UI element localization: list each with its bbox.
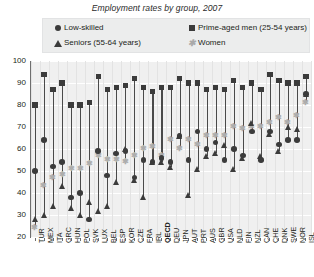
circle-marker-icon [204, 146, 210, 152]
circle-marker-icon [276, 142, 282, 148]
y-axis-tick-label: 80 [2, 101, 26, 109]
data-column: ✱ [239, 61, 248, 237]
data-column: ✱ [266, 61, 275, 237]
triangle-marker-icon [285, 124, 291, 130]
star-marker-icon: ✱ [131, 152, 138, 160]
circle-marker-icon [240, 153, 246, 159]
range-connector-line [143, 87, 144, 197]
square-marker-icon [32, 102, 37, 107]
range-connector-line [44, 74, 45, 215]
star-marker-icon: ✱ [122, 158, 129, 166]
vertical-gridline [311, 61, 312, 237]
star-marker-icon: ✱ [185, 136, 192, 144]
circle-marker-icon [68, 195, 74, 201]
data-column: ✱ [76, 61, 85, 237]
star-marker-icon: ✱ [185, 37, 198, 50]
star-marker-icon: ✱ [140, 145, 147, 153]
y-axis-tick-label: 60 [2, 145, 26, 153]
star-marker-icon: ✱ [230, 123, 237, 131]
x-axis-label-oecd: OECD [164, 222, 171, 243]
circle-marker-icon [150, 159, 156, 165]
triangle-marker-icon [59, 183, 65, 189]
circle-marker-icon [222, 157, 228, 163]
star-marker-icon: ✱ [68, 165, 75, 173]
circle-marker-icon [186, 157, 192, 163]
legend-item-women: ✱ Women [185, 36, 309, 50]
circle-marker-icon [95, 148, 101, 154]
y-axis-tick-label: 20 [2, 233, 26, 241]
data-column: ✱ [139, 61, 148, 237]
range-connector-line [116, 87, 117, 182]
triangle-marker-icon [248, 120, 254, 126]
square-marker-icon [59, 80, 64, 85]
data-column: ✱ [284, 61, 293, 237]
circle-marker-icon [159, 155, 165, 161]
legend-item-prime-aged-men: Prime-aged men (25-54 years) [185, 21, 309, 35]
data-column: ✱ [302, 61, 311, 237]
triangle-marker-icon [86, 199, 92, 205]
square-marker-icon [285, 80, 290, 85]
x-axis-label-che: CHE [272, 228, 279, 243]
circle-marker-icon [123, 148, 129, 154]
square-marker-icon [240, 85, 245, 90]
range-connector-line [107, 90, 108, 207]
data-column: ✱ [167, 61, 176, 237]
star-marker-icon: ✱ [113, 156, 120, 164]
square-marker-icon [195, 80, 200, 85]
x-axis-label-gbr: GBR [218, 227, 225, 243]
data-column: ✱ [148, 61, 157, 237]
circle-marker-icon [294, 137, 300, 143]
x-axis-label-pol: POL [83, 229, 90, 243]
data-column: ✱ [31, 61, 40, 237]
square-marker-icon [150, 89, 155, 94]
x-axis-label-fin: FIN [245, 231, 252, 243]
legend-label: Prime-aged men (25-54 years) [198, 24, 307, 32]
x-axis-label-usa: USA [227, 228, 234, 243]
x-axis-label-can: CAN [263, 228, 270, 243]
plot-area: ✱✱✱✱✱✱✱✱✱✱✱✱✱✱✱✱✱✱✱✱✱✱✱✱✱✱✱✱✱✱✱ [30, 61, 311, 238]
x-axis-label-jpn: JPN [182, 229, 189, 243]
circle-marker-icon [258, 157, 264, 163]
x-axis-label-nor: NOR [299, 227, 306, 243]
circle-marker-icon [32, 168, 38, 174]
triangle-marker-icon [185, 192, 191, 198]
triangle-marker-icon [194, 166, 200, 172]
square-marker-icon [294, 80, 299, 85]
y-axis-tick-label: 100 [2, 57, 26, 65]
square-marker-icon [213, 85, 218, 90]
data-column: ✱ [94, 61, 103, 237]
range-connector-line [288, 83, 289, 140]
square-marker-icon [303, 74, 308, 79]
circle-marker-icon [213, 140, 219, 146]
x-axis-label-fra: FRA [146, 229, 153, 243]
y-axis-tick-label: 90 [2, 79, 26, 87]
star-marker-icon: ✱ [59, 171, 66, 179]
square-marker-icon [186, 80, 191, 85]
data-column: ✱ [176, 61, 185, 237]
triangle-marker-icon [51, 37, 64, 50]
square-marker-icon [204, 87, 209, 92]
x-axis-label-aut: AUT [191, 229, 198, 243]
circle-marker-icon [141, 157, 147, 163]
y-axis-tick-label: 70 [2, 123, 26, 131]
data-column: ✱ [203, 61, 212, 237]
x-axis-label-cze: CZE [137, 229, 144, 243]
data-column: ✱ [121, 61, 130, 237]
square-marker-icon [123, 83, 128, 88]
data-column: ✱ [221, 61, 230, 237]
range-connector-line [198, 83, 199, 169]
star-marker-icon: ✱ [203, 132, 210, 140]
star-marker-icon: ✱ [40, 182, 47, 190]
circle-marker-icon [267, 129, 273, 135]
square-marker-icon [105, 87, 110, 92]
range-connector-line [152, 92, 153, 162]
square-marker-icon [77, 102, 82, 107]
x-axis-label-lux: LUX [101, 229, 108, 243]
x-axis-label-mex: MEX [47, 227, 54, 243]
star-marker-icon: ✱ [257, 123, 264, 131]
data-column: ✱ [58, 61, 67, 237]
range-connector-line [80, 105, 81, 215]
data-column: ✱ [230, 61, 239, 237]
y-axis-tick-label: 50 [2, 167, 26, 175]
triangle-marker-icon [212, 150, 218, 156]
